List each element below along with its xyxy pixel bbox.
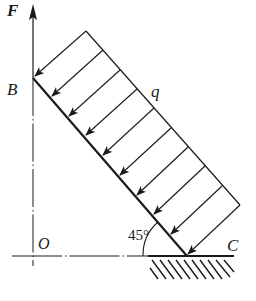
label-f: F xyxy=(6,1,19,20)
load-top-edge xyxy=(86,31,240,205)
load-arrows xyxy=(35,31,240,254)
label-q: q xyxy=(151,82,160,101)
label-angle: 45° xyxy=(128,227,149,243)
ground-support xyxy=(148,256,234,279)
vertical-axis xyxy=(29,4,37,266)
label-o: O xyxy=(38,235,50,252)
label-c: C xyxy=(227,236,239,255)
bar-bc xyxy=(33,78,187,256)
ground-hatching xyxy=(150,260,234,279)
distributed-load xyxy=(35,31,240,254)
label-b: B xyxy=(7,80,18,99)
beam-diagram: F B q O 45° C xyxy=(0,0,256,301)
